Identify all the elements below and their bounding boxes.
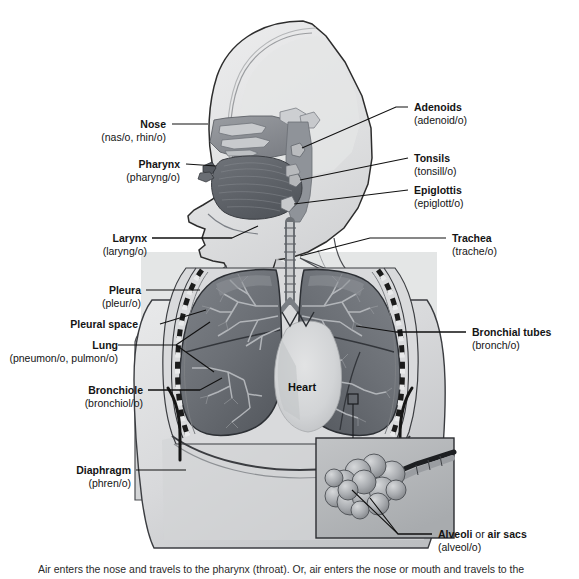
label-lung-term: Lung — [9, 339, 118, 352]
label-diaphragm-term: Diaphragm — [76, 464, 131, 477]
respiratory-system-illustration — [0, 0, 579, 579]
label-lung: Lung (pneumon/o, pulmon/o) — [9, 339, 118, 364]
label-larynx-term: Larynx — [103, 232, 147, 245]
label-bronchial-tubes-combining: (bronch/o) — [472, 339, 551, 352]
head-outline — [188, 21, 372, 292]
label-alveoli: Alveoli or air sacs (alveol/o) — [438, 528, 527, 553]
figure-caption: Air enters the nose and travels to the p… — [38, 563, 558, 577]
label-larynx-combining: (laryng/o) — [103, 245, 147, 258]
label-pleura-term: Pleura — [102, 284, 141, 297]
label-bronchial-tubes-term: Bronchial tubes — [472, 326, 551, 339]
label-epiglottis: Epiglottis (epiglott/o) — [414, 184, 464, 209]
label-diaphragm-combining: (phren/o) — [76, 477, 131, 490]
figure-canvas: Nose (nas/o, rhin/o) Pharynx (pharyng/o)… — [0, 0, 579, 579]
label-tonsils-combining: (tonsill/o) — [414, 165, 457, 178]
label-adenoids: Adenoids (adenoid/o) — [414, 101, 467, 126]
label-epiglottis-combining: (epiglott/o) — [414, 197, 464, 210]
label-adenoids-combining: (adenoid/o) — [414, 114, 467, 127]
label-nose: Nose (nas/o, rhin/o) — [101, 118, 166, 143]
label-diaphragm: Diaphragm (phren/o) — [76, 464, 131, 489]
label-alveoli-term: Alveoli or air sacs — [438, 528, 527, 541]
label-adenoids-term: Adenoids — [414, 101, 467, 114]
label-bronchial-tubes: Bronchial tubes (bronch/o) — [472, 326, 551, 351]
label-alveoli-combining: (alveol/o) — [438, 541, 527, 554]
label-epiglottis-term: Epiglottis — [414, 184, 464, 197]
label-pleural-space: Pleural space — [70, 318, 138, 331]
label-alveoli-conjunction: or — [472, 528, 487, 540]
label-bronchiole: Bronchiole (bronchiol/o) — [85, 384, 143, 409]
label-trachea-term: Trachea — [452, 232, 497, 245]
label-pleura-combining: (pleur/o) — [102, 297, 141, 310]
label-pleural-space-term: Pleural space — [70, 318, 138, 331]
label-pleura: Pleura (pleur/o) — [102, 284, 141, 309]
label-pharynx: Pharynx (pharyng/o) — [126, 158, 180, 183]
label-trachea-combining: (trache/o) — [452, 245, 497, 258]
label-bronchiole-combining: (bronchiol/o) — [85, 397, 143, 410]
label-tonsils: Tonsils (tonsill/o) — [414, 152, 457, 177]
label-larynx: Larynx (laryng/o) — [103, 232, 147, 257]
label-heart: Heart — [288, 381, 316, 393]
label-nose-term: Nose — [101, 118, 166, 131]
label-tonsils-term: Tonsils — [414, 152, 457, 165]
label-nose-combining: (nas/o, rhin/o) — [101, 131, 166, 144]
label-alveoli-word: Alveoli — [438, 528, 472, 540]
label-pharynx-combining: (pharyng/o) — [126, 171, 180, 184]
label-trachea: Trachea (trache/o) — [452, 232, 497, 257]
label-alveoli-alt: air sacs — [488, 528, 527, 540]
label-pharynx-term: Pharynx — [126, 158, 180, 171]
label-bronchiole-term: Bronchiole — [85, 384, 143, 397]
label-lung-combining: (pneumon/o, pulmon/o) — [9, 352, 118, 365]
